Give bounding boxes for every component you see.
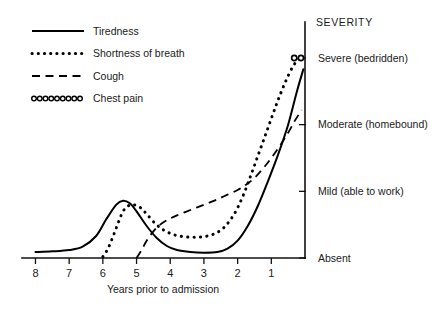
- severity-axis-title: SEVERITY: [316, 16, 373, 28]
- x-tick-label: 7: [66, 267, 72, 279]
- legend-sample-chest-pain: [32, 96, 37, 101]
- legend-sample-chest-pain: [78, 96, 83, 101]
- symptom-progression-figure: 87654321 Severe (bedridden)Moderate (hom…: [0, 0, 442, 311]
- legend-sample-chest-pain: [49, 96, 54, 101]
- x-tick-label: 3: [201, 267, 207, 279]
- severity-tick-label: Absent: [318, 252, 351, 264]
- x-axis-tick-labels: 87654321: [32, 267, 274, 279]
- x-tick-label: 1: [268, 267, 274, 279]
- chest-pain-marker: [298, 55, 303, 60]
- severity-tick-label: Mild (able to work): [318, 185, 404, 197]
- legend: TirednessShortness of breathCoughChest p…: [32, 25, 185, 105]
- x-axis-ticks: [35, 258, 271, 264]
- legend-label: Chest pain: [93, 92, 143, 104]
- x-tick-label: 4: [167, 267, 173, 279]
- legend-sample-chest-pain: [37, 96, 42, 101]
- legend-sample-chest-pain: [72, 96, 77, 101]
- legend-label: Tiredness: [93, 25, 139, 37]
- legend-sample-chest-pain: [66, 96, 71, 101]
- x-tick-label: 2: [235, 267, 241, 279]
- legend-sample-chest-pain: [60, 96, 65, 101]
- series-curve-shortness-of-breath: [103, 57, 301, 257]
- series-curve-cough: [137, 110, 302, 258]
- series-group: [35, 55, 303, 258]
- legend-label: Cough: [93, 70, 124, 82]
- chest-pain-marker: [292, 55, 297, 60]
- x-axis-title: Years prior to admission: [107, 283, 219, 295]
- severity-timeline-chart: 87654321 Severe (bedridden)Moderate (hom…: [0, 0, 442, 311]
- severity-tick-label: Severe (bedridden): [318, 52, 408, 64]
- x-tick-label: 8: [32, 267, 38, 279]
- legend-sample-chest-pain: [55, 96, 60, 101]
- severity-axis-tick-labels: Severe (bedridden)Moderate (homebound)Mi…: [318, 52, 428, 264]
- severity-tick-label: Moderate (homebound): [318, 118, 428, 130]
- x-tick-label: 5: [133, 267, 139, 279]
- legend-label: Shortness of breath: [93, 47, 185, 59]
- x-tick-label: 6: [100, 267, 106, 279]
- legend-sample-chest-pain: [43, 96, 48, 101]
